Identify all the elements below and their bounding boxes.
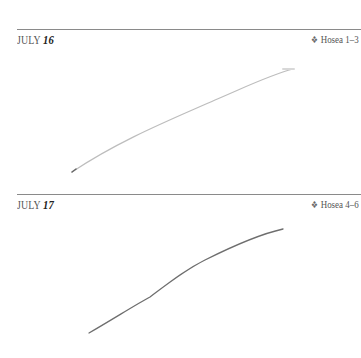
handwriting-stroke [0, 0, 361, 358]
journal-entry-july-17: JULY 17 ❖Hosea 4–6 [0, 0, 361, 358]
